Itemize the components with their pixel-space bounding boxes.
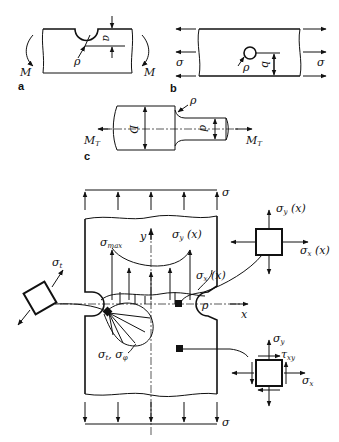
panel-a-notched-bar-bending [26, 16, 149, 73]
stress-label-b-right: σ [317, 56, 325, 69]
main-notched-plate-stress-field [55, 190, 262, 435]
moment-label-right: M [143, 66, 156, 79]
panel-b-plate-with-hole-tension [176, 29, 326, 76]
sigma-y-x-label: σy (x) [172, 228, 202, 242]
radius-label-b: ρ [242, 61, 250, 74]
diameter-label-d: d [197, 125, 210, 132]
applied-stress-bottom-label: σ [222, 416, 230, 429]
x-axis-label: x [241, 308, 248, 321]
radius-label-main: ρ [201, 299, 209, 312]
element2-tau-xy-label: τxy [281, 348, 296, 362]
y-axis-label: y [139, 230, 147, 243]
radius-label-a: ρ [73, 55, 81, 68]
stress-concentration-diagram: M M ρ a a σ σ ρ b b D d ρ MT MT c σ σ σm… [0, 0, 339, 442]
stress-element-sigma-t [18, 270, 63, 325]
sigma-t-phi-label: σt, σφ [98, 348, 128, 362]
diameter-label-D: D [127, 124, 140, 134]
panel-label-c: c [84, 150, 90, 162]
sigma-max-label: σmax [100, 236, 122, 250]
torque-label-left: MT [83, 134, 101, 148]
stress-label-b-left: σ [176, 56, 184, 69]
applied-stress-top-label: σ [222, 186, 230, 199]
element-sigma-y-label: σy (x) [276, 202, 306, 216]
element2-sigma-y-label: σy [273, 332, 286, 346]
moment-label-left: M [19, 66, 32, 79]
panel-label-b: b [170, 82, 177, 94]
torque-label-right: MT [245, 134, 263, 148]
distance-label-b: b [259, 61, 272, 68]
sigma-t-label: σt [52, 256, 63, 270]
panel-c-shaft-torsion [98, 105, 252, 150]
element-sigma-x-label: σx (x) [300, 244, 330, 258]
depth-label-a: a [100, 35, 113, 42]
stress-element-sigma-tau [232, 340, 305, 406]
stress-element-sigma-x-y [231, 210, 308, 274]
radius-label-c: ρ [189, 94, 197, 107]
panel-label-a: a [18, 80, 25, 92]
element2-sigma-x-label: σx [302, 374, 314, 388]
sigma-x-x-label: σx (x) [196, 269, 226, 283]
